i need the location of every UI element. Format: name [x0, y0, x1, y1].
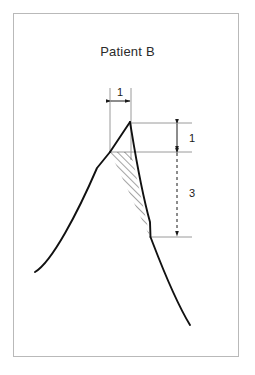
- lower-height-dimension-label: 3: [189, 187, 195, 199]
- diagram-canvas: 1 1 3: [0, 0, 255, 375]
- waveform-peak-segment: [110, 122, 130, 152]
- width-dimension-group: 1: [111, 86, 130, 101]
- waveform-ascending-segment: [35, 152, 110, 272]
- width-dimension-label: 1: [117, 86, 123, 98]
- upper-height-dimension-group: 1: [177, 124, 195, 151]
- lower-height-dimension-group: 3: [177, 153, 195, 236]
- figure-root: Patient B: [0, 0, 255, 375]
- upper-height-dimension-label: 1: [189, 132, 195, 144]
